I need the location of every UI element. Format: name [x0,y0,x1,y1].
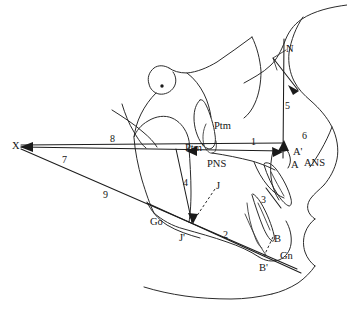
arrowhead-x-left [20,142,33,152]
label-landmark-Go: Go [150,217,163,228]
label-landmark-B-prime: B' [259,263,268,274]
label-landmark-B: B [274,234,281,245]
upper-lip-profile-outline [308,185,324,219]
label-measurement-2: 2 [223,230,228,240]
maxilla-anterior-wall-outline [271,151,279,200]
cephalometric-tracing-figure: X N Ptm Ptm' PNS J A' A ANS Go J' B Gn B… [0,0,347,320]
label-landmark-J-prime: J' [179,233,185,244]
sella-center-dot [160,84,163,87]
label-measurement-1: 1 [251,137,256,147]
anatomy-outlines [112,5,347,299]
dashed-b-to-bp [264,237,273,256]
line-8-x-to-ptm-ans [21,147,285,151]
mandibular-lower-border [154,213,259,257]
line-5-n-to-a-vertical [283,39,284,158]
anterior-cranial-base-outline [169,37,252,73]
label-measurement-3: 3 [261,195,266,205]
label-landmark-Gn: Gn [280,251,293,262]
label-landmark-N: N [286,44,294,55]
label-landmark-Ptm-prime: Ptm' [185,143,204,154]
label-measurement-7: 7 [62,155,67,165]
label-landmark-A: A [291,160,299,171]
label-measurement-6: 6 [302,131,307,141]
arrowhead-a-pointing-up [278,140,289,151]
label-landmark-PNS: PNS [207,159,226,170]
upper-incisor-root-line [271,172,284,196]
maxillary-body-outline [134,116,189,148]
label-landmark-ANS: ANS [304,158,325,169]
lower-lip-profile-outline [304,219,316,266]
label-landmark-Ptm: Ptm [214,121,231,132]
label-measurement-5: 5 [285,101,290,111]
cranial-base-superior-outline [244,5,347,83]
label-landmark-A-prime: A' [293,147,302,158]
posterior-pharyngeal-wall [244,37,261,118]
line-1-ptm-to-a [21,143,283,145]
label-measurement-9: 9 [103,190,108,200]
label-landmark-X: X [12,141,20,152]
soft-tissue-chin-outline [272,266,315,294]
line-6-n-to-orbitale-diagonal [273,58,298,90]
submental-neck-outline [144,287,272,299]
orbital-rim-outline [187,73,211,117]
lower-second-tooth-outline [247,203,262,248]
label-landmark-J: J [216,181,220,192]
label-measurement-8: 8 [110,134,115,144]
label-measurement-4: 4 [183,178,188,188]
